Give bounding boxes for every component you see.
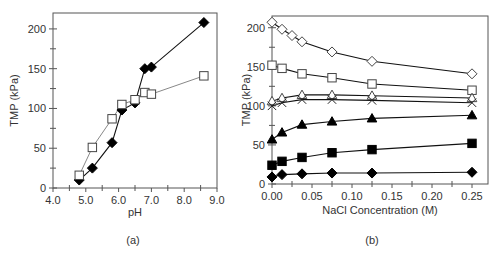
data-point-filled-diamond: [107, 138, 117, 148]
data-point-open-triangle: [297, 90, 307, 98]
x-tick-label: 5.0: [78, 194, 93, 206]
data-point-open-diamond: [287, 31, 297, 41]
x-tick-label: 7.0: [144, 194, 159, 206]
data-point-open-square: [108, 115, 116, 123]
panel-a: 4.05.06.07.08.09.0050100150200 pH TMP (k…: [8, 13, 225, 246]
data-point-filled-square: [328, 149, 336, 157]
data-point-open-square: [298, 70, 306, 78]
ticks-a: 4.05.06.07.08.09.0050100150200: [28, 23, 225, 206]
data-point-filled-diamond: [367, 168, 377, 178]
data-point-open-square: [75, 171, 83, 179]
y-tick-label: 150: [247, 61, 265, 73]
data-point-open-diamond: [467, 69, 477, 79]
data-point-open-triangle: [327, 90, 337, 98]
data-point-open-square: [131, 96, 139, 104]
data-point-filled-square: [268, 161, 276, 169]
x-axis-title-a: pH: [128, 206, 142, 218]
x-tick-label: 9.0: [209, 194, 224, 206]
data-point-open-diamond: [267, 17, 277, 27]
y-tick-label: 0: [259, 178, 265, 190]
data-point-filled-square: [368, 145, 376, 153]
data-point-open-square: [200, 72, 208, 80]
y-tick-label: 200: [28, 23, 46, 35]
data-point-filled-diamond: [467, 167, 477, 177]
y-tick-label: 0: [40, 182, 46, 194]
data-point-open-square: [147, 90, 155, 98]
data-point-filled-square: [278, 157, 286, 165]
x-tick-label: 0.10: [341, 190, 362, 202]
data-point-filled-square: [298, 153, 306, 161]
data-point-filled-diamond: [297, 169, 307, 179]
series-markers-a: [74, 18, 209, 186]
data-point-open-square: [328, 74, 336, 82]
x-tick-label: 0.25: [461, 190, 482, 202]
data-point-filled-diamond: [267, 172, 277, 182]
data-point-open-square: [278, 64, 286, 72]
data-point-open-square: [268, 61, 276, 69]
data-point-open-square: [88, 143, 96, 151]
data-point-open-square: [118, 100, 126, 108]
x-tick-label: 8.0: [177, 194, 192, 206]
x-tick-label: 0.05: [301, 190, 322, 202]
y-tick-label: 100: [28, 102, 46, 114]
data-point-filled-triangle: [267, 135, 277, 143]
x-tick-label: 6.0: [111, 194, 126, 206]
data-point-filled-triangle: [277, 128, 287, 136]
panel-label-a: (a): [126, 234, 139, 246]
panel-label-b: (b): [365, 234, 378, 246]
series-line-filled-diamond: [79, 23, 204, 181]
series-lines-a: [79, 23, 204, 181]
data-point-filled-triangle: [467, 110, 477, 118]
data-point-filled-square: [468, 139, 476, 147]
y-tick-label: 50: [34, 142, 46, 154]
y-tick-label: 50: [253, 139, 265, 151]
x-tick-label: 0.00: [261, 190, 282, 202]
data-point-filled-diamond: [327, 168, 337, 178]
data-point-open-square: [368, 80, 376, 88]
x-tick-label: 0.20: [421, 190, 442, 202]
x-tick-label: 4.0: [45, 194, 60, 206]
data-point-filled-diamond: [277, 170, 287, 180]
y-tick-label: 200: [247, 22, 265, 34]
x-tick-label: 0.15: [381, 190, 402, 202]
y-axis-title-b: TMP (kPa): [240, 74, 252, 126]
y-axis-title-a: TMP (kPa): [8, 74, 20, 126]
figure: 4.05.06.07.08.09.0050100150200 pH TMP (k…: [0, 0, 501, 258]
data-point-open-diamond: [367, 56, 377, 66]
x-axis-title-b: NaCl Concentration (M): [322, 204, 438, 216]
data-point-open-diamond: [327, 47, 337, 57]
data-point-open-diamond: [277, 24, 287, 34]
panel-b: 0.000.050.100.150.200.25050100150200 NaC…: [240, 16, 488, 246]
data-point-open-diamond: [297, 37, 307, 47]
y-tick-label: 150: [28, 63, 46, 75]
